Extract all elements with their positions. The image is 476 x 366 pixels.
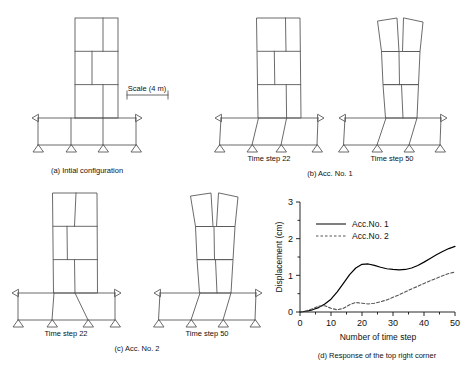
chart-xtick-50: 50 (450, 318, 460, 328)
panel-c-struct-ts22 (18, 193, 115, 320)
chart-ytick-2: 2 (288, 234, 293, 244)
figure-root: 010203040500123 Acc.No. 1 Acc.No. 2 Disp… (0, 0, 476, 366)
chart-ytick-0: 0 (288, 307, 293, 317)
panel-a-caption: (a) Intial configuration (51, 166, 123, 175)
chart-legend: Acc.No. 1 Acc.No. 2 (316, 219, 389, 241)
legend-label-series-2: Acc.No. 2 (352, 231, 389, 241)
panel-b-ts50-ground-supports (339, 145, 446, 152)
panel-c-ts50-label: Time step 50 (185, 329, 228, 338)
chart-line-2 (300, 272, 455, 312)
panel-a-structure (38, 18, 136, 145)
panel-b-struct-ts22 (220, 18, 319, 145)
legend-label-series-1: Acc.No. 1 (352, 219, 389, 229)
chart-xtick-40: 40 (419, 318, 429, 328)
panel-d-chart: 010203040500123 Acc.No. 1 Acc.No. 2 Disp… (274, 197, 460, 342)
panel-c-ts22-ground-supports (13, 320, 120, 327)
panel-c-caption: (c) Acc. No. 2 (114, 344, 159, 353)
panel-c-ts50-ground-supports (154, 320, 261, 327)
chart-ytick-1: 1 (288, 271, 293, 281)
scale-label: Scale (4 m) (128, 84, 166, 93)
chart-xtick-0: 0 (297, 318, 302, 328)
chart-y-axis-label: Displacement (cm) (274, 221, 284, 292)
chart-xtick-30: 30 (388, 318, 398, 328)
chart-xtick-10: 10 (326, 318, 336, 328)
chart-xtick-20: 20 (357, 318, 367, 328)
chart-tick-labels: 010203040500123 (288, 197, 460, 328)
panel-b-ts22-label: Time step 22 (247, 154, 290, 163)
panel-c-ts22-label: Time step 22 (44, 329, 87, 338)
panel-b-struct-ts50 (344, 18, 442, 145)
panel-a-ground-supports (33, 145, 141, 152)
figure-canvas: 010203040500123 Acc.No. 1 Acc.No. 2 Disp… (0, 0, 476, 366)
panel-c-struct-ts50 (159, 193, 257, 320)
chart-x-axis-label: Number of time step (340, 332, 417, 342)
panel-d-caption: (d) Response of the top right corner (318, 351, 436, 360)
panel-b-ts22-ground-supports (215, 145, 323, 152)
chart-ytick-3: 3 (288, 197, 293, 207)
chart-series (300, 246, 455, 312)
panel-b-caption: (b) Acc. No. 1 (307, 169, 352, 178)
panel-b-ts50-label: Time step 50 (370, 154, 413, 163)
